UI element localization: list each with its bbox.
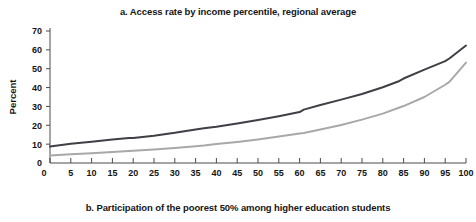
y-tick-label: 20 — [32, 121, 42, 131]
x-tick-label: 35 — [191, 168, 201, 178]
series-line-upper-curve — [50, 46, 466, 147]
x-tick-label: 70 — [336, 168, 346, 178]
y-tick-label: 70 — [32, 26, 42, 36]
chart-plot-area: 010203040506070 051015202530354045505560… — [0, 20, 476, 180]
x-tick-label: 55 — [274, 168, 284, 178]
panel-caption: b. Participation of the poorest 50% amon… — [0, 202, 476, 213]
x-tick-label: 20 — [128, 168, 138, 178]
x-tick-label: 30 — [170, 168, 180, 178]
series-line-lower-curve — [50, 63, 466, 156]
y-tick-label: 0 — [37, 158, 42, 168]
y-tick-label: 10 — [32, 140, 42, 150]
x-tick-label: 65 — [315, 168, 325, 178]
x-tick-label: 25 — [149, 168, 159, 178]
x-tick-label: 5 — [68, 168, 73, 178]
data-series-group — [50, 46, 466, 156]
x-tick-label: 95 — [440, 168, 450, 178]
x-tick-label: 60 — [295, 168, 305, 178]
x-tick-label: 100 — [458, 168, 473, 178]
y-tick-label: 40 — [32, 83, 42, 93]
x-tick-label: 90 — [419, 168, 429, 178]
y-tick-label: 30 — [32, 102, 42, 112]
y-tick-label: 60 — [32, 45, 42, 55]
x-tick-label: 75 — [357, 168, 367, 178]
y-tick-label: 50 — [32, 64, 42, 74]
line-chart-svg: 010203040506070 051015202530354045505560… — [0, 20, 476, 180]
x-tick-label: 85 — [399, 168, 409, 178]
x-tick-label: 40 — [211, 168, 221, 178]
x-tick-label: 50 — [253, 168, 263, 178]
x-tick-label: 0 — [41, 168, 46, 178]
x-tick-label: 80 — [378, 168, 388, 178]
y-axis: 010203040506070 — [32, 26, 50, 168]
x-axis: 0510152025303540455055606570758085909510… — [41, 158, 473, 178]
panel-title: a. Access rate by income percentile, reg… — [0, 6, 476, 17]
axis-titles: PercentIncome percentile — [7, 79, 298, 180]
x-tick-label: 45 — [232, 168, 242, 178]
x-tick-label: 15 — [107, 168, 117, 178]
figure-container: a. Access rate by income percentile, reg… — [0, 0, 476, 222]
y-axis-title: Percent — [7, 79, 18, 115]
x-tick-label: 10 — [87, 168, 97, 178]
